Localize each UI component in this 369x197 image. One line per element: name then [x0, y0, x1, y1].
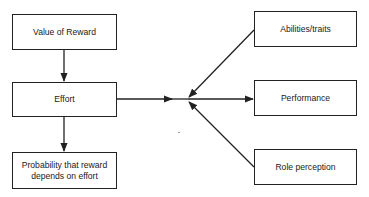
arrow-abilities-to-junction: [189, 30, 254, 97]
node-label: Probability that reward depends on effor…: [17, 160, 112, 181]
node-abilities-traits: Abilities/traits: [254, 11, 357, 47]
node-probability: Probability that reward depends on effor…: [12, 152, 117, 189]
node-performance: Performance: [254, 80, 357, 116]
arrow-role-to-junction: [189, 102, 254, 167]
node-label: Performance: [281, 93, 330, 103]
node-role-perception: Role perception: [254, 149, 357, 185]
scan-speck: [178, 132, 180, 133]
node-effort: Effort: [12, 82, 117, 117]
node-value-of-reward: Value of Reward: [12, 14, 117, 50]
node-label: Effort: [54, 94, 74, 104]
node-label: Value of Reward: [33, 27, 96, 37]
node-label: Role perception: [275, 162, 335, 172]
node-label: Abilities/traits: [280, 24, 331, 34]
